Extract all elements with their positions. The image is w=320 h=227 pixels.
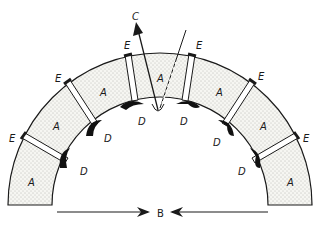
label-block: A (215, 87, 223, 98)
label-block: A (156, 73, 164, 84)
label-block: A (27, 177, 35, 188)
label-block: A (259, 121, 267, 132)
label-pad: D (80, 166, 88, 177)
label-block: A (99, 87, 107, 98)
label-joint: E (124, 40, 131, 51)
label-pad: D (213, 137, 221, 148)
label-block: A (52, 121, 60, 132)
label-joint: E (258, 71, 265, 82)
label-pad: D (180, 116, 188, 127)
label-c: C (132, 11, 139, 22)
arch-diagram: C B A A A A A A A E E E E E E D D D D D … (0, 0, 320, 227)
label-pad: D (238, 166, 246, 177)
label-joint: E (9, 133, 16, 144)
label-block: A (286, 177, 294, 188)
label-joint: E (196, 40, 203, 51)
label-pad: D (138, 116, 146, 127)
label-joint: E (55, 73, 62, 84)
label-pad: D (104, 133, 112, 144)
label-b: B (157, 208, 164, 219)
label-joint: E (303, 133, 310, 144)
